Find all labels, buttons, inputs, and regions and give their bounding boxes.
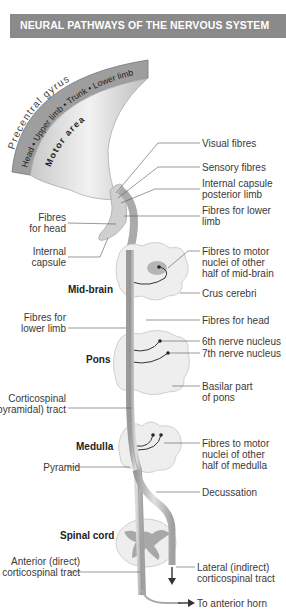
pons-section bbox=[113, 330, 189, 394]
label-corticospinal: Corticospinal bbox=[8, 393, 66, 404]
label-anterior-tract: Anterior (direct) bbox=[11, 556, 80, 567]
label-internal-capsule-posterior-2: posterior limb bbox=[202, 189, 262, 200]
label-fibres-head-left-2: for head bbox=[29, 223, 66, 234]
label-basilar-pons: Basilar part bbox=[202, 381, 253, 392]
label-fibres-lower-limb-right-2: limb bbox=[202, 216, 220, 227]
label-sensory-fibres: Sensory fibres bbox=[202, 162, 266, 173]
label-fibres-for-head-right: Fibres for head bbox=[202, 315, 269, 326]
label-motor-nuclei-midbrain-2: nuclei of other bbox=[202, 257, 265, 268]
label-internal-capsule-left: Internal bbox=[33, 246, 66, 257]
arrow-right-icon bbox=[178, 599, 195, 607]
label-spinal-cord: Spinal cord bbox=[60, 530, 114, 541]
label-motor-nuclei-midbrain: Fibres to motor bbox=[202, 246, 269, 257]
label-internal-capsule-posterior: Internal capsule bbox=[202, 178, 273, 189]
label-visual-fibres: Visual fibres bbox=[202, 138, 256, 149]
label-midbrain: Mid-brain bbox=[68, 284, 113, 295]
label-pons: Pons bbox=[86, 354, 110, 365]
label-lateral-tract: Lateral (indirect) bbox=[197, 562, 269, 573]
label-fibres-head-left: Fibres bbox=[38, 212, 66, 223]
spinal-cord-section bbox=[116, 519, 176, 567]
label-anterior-tract-2: corticospinal tract bbox=[2, 567, 80, 578]
label-anterior-horn: To anterior horn bbox=[197, 598, 267, 609]
label-fibres-lower-limb-right: Fibres for lower bbox=[202, 205, 271, 216]
label-motor-nuclei-medulla: Fibres to motor bbox=[202, 438, 269, 449]
arrow-down-icon bbox=[168, 567, 176, 585]
label-medulla: Medulla bbox=[76, 441, 113, 452]
label-fibres-lower-limb-left: Fibres for bbox=[24, 312, 66, 323]
label-decussation: Decussation bbox=[202, 487, 257, 498]
label-motor-nuclei-midbrain-3: half of mid-brain bbox=[202, 268, 274, 279]
label-pyramid: Pyramid bbox=[43, 462, 80, 473]
motor-pathway-diagram: Precentral gyrus Head • Upper limb • Tru… bbox=[0, 0, 286, 614]
label-motor-nuclei-medulla-2: nuclei of other bbox=[202, 449, 265, 460]
precentral-gyrus: Precentral gyrus Head • Upper limb • Tru… bbox=[5, 60, 148, 200]
label-7th-nerve: 7th nerve nucleus bbox=[202, 348, 281, 359]
label-6th-nerve: 6th nerve nucleus bbox=[202, 336, 281, 347]
label-fibres-lower-limb-left-2: lower limb bbox=[21, 323, 66, 334]
label-internal-capsule-left-2: capsule bbox=[32, 257, 66, 268]
label-motor-nuclei-medulla-3: half of medulla bbox=[202, 460, 267, 471]
label-lateral-tract-2: corticospinal tract bbox=[197, 573, 275, 584]
label-crus-cerebri: Crus cerebri bbox=[202, 288, 256, 299]
label-corticospinal-2: (pyramidal) tract bbox=[0, 404, 66, 415]
label-basilar-pons-2: of pons bbox=[202, 392, 235, 403]
